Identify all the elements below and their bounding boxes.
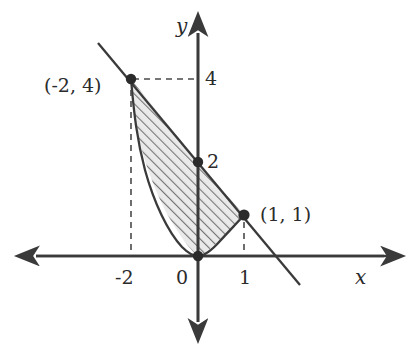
- tick-label-y-2: 2: [207, 152, 219, 171]
- point-1-1: [238, 209, 249, 220]
- point-origin: [193, 251, 203, 261]
- graph-canvas: [0, 0, 420, 353]
- tick-label-y-4: 4: [205, 69, 217, 88]
- tick-label-origin: 0: [176, 268, 188, 287]
- shaded-region: [131, 79, 244, 256]
- graph-figure: (-2, 4) (1, 1) 4 2 -2 0 1 x y: [0, 0, 420, 353]
- tick-label-x-minus-2: -2: [115, 268, 134, 287]
- point-0-2: [193, 157, 203, 167]
- tick-label-x-1: 1: [239, 268, 251, 287]
- axis-label-x: x: [355, 267, 366, 287]
- point-minus2-4: [126, 74, 136, 84]
- label-point-minus2-4: (-2, 4): [44, 76, 102, 95]
- label-point-1-1: (1, 1): [260, 205, 311, 224]
- axis-label-y: y: [176, 16, 187, 36]
